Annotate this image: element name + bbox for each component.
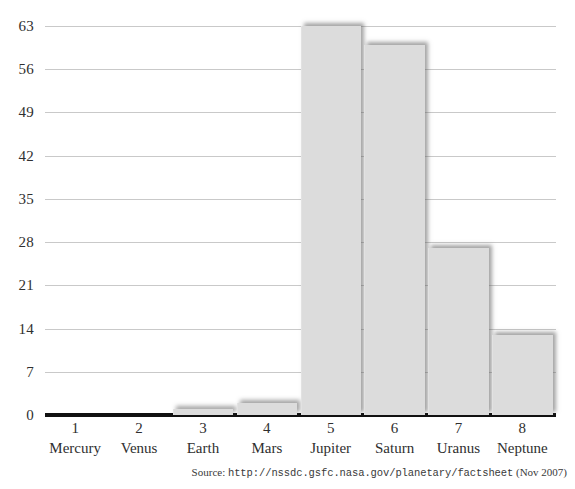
x-tick-name: Jupiter	[301, 438, 361, 459]
x-tick-label: 1Mercury	[45, 419, 105, 459]
y-tick-label: 7	[0, 363, 34, 380]
bar-slot	[173, 26, 233, 415]
bar[interactable]	[492, 335, 552, 415]
x-tick-label: 8Neptune	[492, 419, 552, 459]
bar-chart: 071421283542495663 1Mercury2Venus3Earth4…	[0, 0, 575, 489]
bar-slot	[364, 26, 424, 415]
x-tick-number: 7	[428, 419, 488, 438]
bar[interactable]	[173, 409, 233, 415]
x-tick-number: 5	[301, 419, 361, 438]
source-note: Source: http://nssdc.gsfc.nasa.gov/plane…	[0, 466, 567, 479]
x-tick-name: Neptune	[492, 438, 552, 459]
bar-slot	[109, 26, 169, 415]
y-tick-label: 28	[0, 234, 34, 251]
x-tick-label: 7Uranus	[428, 419, 488, 459]
source-url: http://nssdc.gsfc.nasa.gov/planetary/fac…	[228, 467, 513, 479]
x-tick-number: 3	[173, 419, 233, 438]
x-tick-name: Earth	[173, 438, 233, 459]
x-tick-label: 4Mars	[237, 419, 297, 459]
y-tick-label: 0	[0, 407, 34, 424]
y-tick-label: 63	[0, 18, 34, 35]
bar[interactable]	[301, 26, 361, 415]
x-tick-name: Mercury	[45, 438, 105, 459]
bar[interactable]	[237, 403, 297, 415]
x-tick-name: Mars	[237, 438, 297, 459]
bar-slot	[45, 26, 105, 415]
x-tick-name: Venus	[109, 438, 169, 459]
source-prefix: Source:	[192, 466, 226, 478]
x-tick-label: 2Venus	[109, 419, 169, 459]
bar-series	[45, 26, 556, 415]
y-tick-label: 35	[0, 190, 34, 207]
y-axis: 071421283542495663	[0, 0, 45, 489]
bar[interactable]	[364, 45, 424, 415]
bar-slot	[492, 26, 552, 415]
x-axis-labels: 1Mercury2Venus3Earth4Mars5Jupiter6Saturn…	[45, 419, 556, 469]
source-date: (Nov 2007)	[516, 466, 567, 478]
bar-slot	[428, 26, 488, 415]
x-tick-number: 1	[45, 419, 105, 438]
y-tick-label: 56	[0, 61, 34, 78]
x-tick-name: Uranus	[428, 438, 488, 459]
x-tick-number: 8	[492, 419, 552, 438]
bar[interactable]	[428, 248, 488, 415]
y-tick-label: 42	[0, 147, 34, 164]
x-tick-label: 3Earth	[173, 419, 233, 459]
bar-slot	[301, 26, 361, 415]
x-tick-number: 6	[364, 419, 424, 438]
x-tick-number: 4	[237, 419, 297, 438]
plot-area	[45, 26, 556, 415]
y-tick-label: 21	[0, 277, 34, 294]
bar-slot	[237, 26, 297, 415]
y-tick-label: 14	[0, 320, 34, 337]
y-tick-label: 49	[0, 104, 34, 121]
x-tick-label: 5Jupiter	[301, 419, 361, 459]
x-tick-number: 2	[109, 419, 169, 438]
x-tick-name: Saturn	[364, 438, 424, 459]
x-tick-label: 6Saturn	[364, 419, 424, 459]
